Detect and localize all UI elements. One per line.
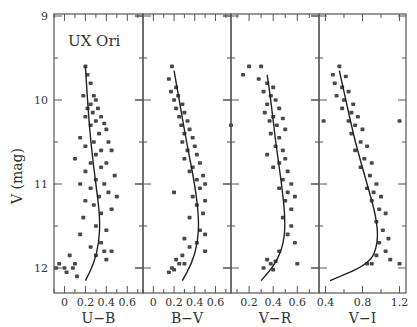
data-point — [191, 195, 195, 199]
data-point — [398, 262, 402, 266]
data-point — [71, 266, 75, 270]
data-point — [365, 144, 369, 148]
data-point — [169, 90, 173, 94]
data-point — [201, 174, 205, 178]
data-point — [262, 90, 266, 94]
data-point — [347, 90, 351, 94]
data-point — [268, 119, 272, 123]
data-point — [83, 199, 87, 203]
data-point — [381, 228, 385, 232]
data-point — [174, 258, 178, 262]
data-point — [344, 75, 348, 79]
data-point — [104, 228, 108, 232]
data-point — [106, 140, 110, 144]
data-point — [198, 161, 202, 165]
data-point — [188, 245, 192, 249]
data-point — [174, 107, 178, 111]
data-point — [62, 266, 66, 270]
data-point — [99, 149, 103, 153]
data-point — [229, 123, 233, 127]
data-point — [203, 199, 207, 203]
data-point — [353, 149, 357, 153]
panel-frame — [231, 14, 319, 293]
data-point — [295, 262, 299, 266]
data-point — [337, 65, 341, 69]
data-point — [106, 191, 110, 195]
data-point — [92, 94, 96, 98]
data-point — [265, 102, 269, 106]
y-tick-label: 10 — [34, 94, 48, 107]
data-point — [195, 153, 199, 157]
y-tick-label: 9 — [41, 10, 48, 23]
data-point — [361, 128, 365, 132]
x-tick-label: 0.2 — [165, 296, 183, 309]
data-point — [172, 98, 176, 102]
data-point — [68, 254, 72, 258]
data-point — [182, 157, 186, 161]
panel-2: 00.20.40.6B−V — [135, 14, 231, 326]
data-point — [379, 195, 383, 199]
data-point — [167, 77, 171, 81]
x-axis-label: V−R — [258, 310, 292, 326]
fit-curve — [261, 75, 285, 281]
x-tick-label: 0 — [61, 296, 68, 309]
data-point — [182, 237, 186, 241]
data-point — [362, 157, 366, 161]
data-point — [198, 186, 202, 190]
data-point — [97, 132, 101, 136]
data-point — [115, 195, 119, 199]
data-point — [193, 144, 197, 148]
data-point — [269, 132, 273, 136]
fit-curve — [174, 71, 198, 281]
panels: 00.20.40.6U−B00.20.40.6B−V0.20.40.6V−R0.… — [54, 14, 408, 326]
data-point — [359, 140, 363, 144]
data-point — [384, 249, 388, 253]
data-point — [384, 212, 388, 216]
x-tick-label: 0.4 — [317, 296, 335, 309]
data-point — [257, 77, 261, 81]
data-point — [398, 119, 402, 123]
data-point — [368, 174, 372, 178]
data-point — [99, 115, 103, 119]
data-point — [170, 65, 174, 69]
data-point — [356, 115, 360, 119]
data-point — [286, 191, 290, 195]
data-point — [83, 170, 87, 174]
panel-frame — [143, 14, 231, 293]
data-point — [286, 170, 290, 174]
data-point — [99, 241, 103, 245]
x-tick-label: 0.2 — [240, 296, 258, 309]
data-point — [353, 123, 357, 127]
data-point — [81, 216, 85, 220]
data-point — [81, 94, 85, 98]
data-point — [94, 119, 98, 123]
panel-4: 0.40.81.2V−I — [311, 14, 408, 326]
data-point — [263, 111, 267, 115]
data-point — [331, 73, 335, 77]
panel-3: 0.20.40.6V−R — [223, 14, 319, 326]
data-point — [94, 153, 98, 157]
x-tick-label: 0.4 — [264, 296, 282, 309]
data-point — [172, 191, 176, 195]
data-point — [54, 266, 58, 270]
y-tick-labels: 9101112 — [34, 10, 48, 275]
data-point — [377, 207, 381, 211]
data-point — [333, 81, 337, 85]
data-point — [277, 186, 281, 190]
data-point — [94, 224, 98, 228]
data-point — [177, 262, 181, 266]
x-axis-label: U−B — [82, 310, 116, 326]
data-point — [89, 102, 93, 106]
y-tick-label: 11 — [34, 178, 48, 191]
data-point — [275, 123, 279, 127]
data-point — [167, 270, 171, 274]
x-tick-label: 1.2 — [391, 296, 409, 309]
data-point — [78, 136, 82, 140]
x-tick-label: 0.6 — [207, 296, 225, 309]
data-point — [374, 254, 378, 258]
data-point — [271, 165, 275, 169]
data-point — [286, 233, 290, 237]
data-point — [57, 262, 61, 266]
data-point — [96, 107, 100, 111]
x-tick-label: 0.6 — [289, 296, 307, 309]
